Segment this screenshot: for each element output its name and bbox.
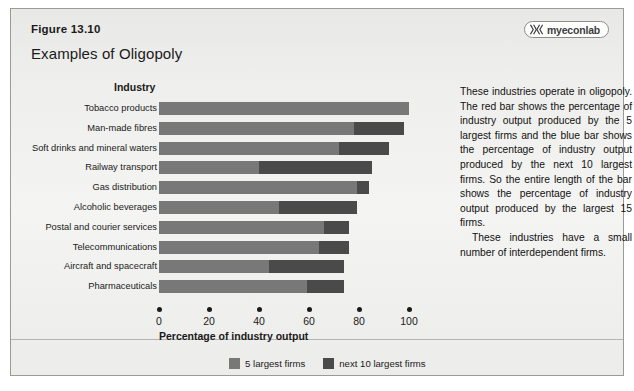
bar-row: Postal and courier services: [159, 221, 409, 234]
bar-row: Pharmaceuticals: [159, 280, 409, 293]
explanatory-paragraph-2: These industries have a small number of …: [460, 231, 632, 260]
x-axis-tick-label: 60: [303, 315, 315, 327]
oligopoly-bar-chart: Industry Tobacco productsMan-made fibres…: [11, 9, 441, 349]
y-axis-title: Industry: [114, 81, 155, 93]
bar-segment: [279, 201, 357, 214]
x-axis-tick: [407, 307, 412, 312]
legend-swatch: [323, 358, 334, 369]
bar-row: Soft drinks and mineral waters: [159, 142, 409, 155]
category-label: Alcoholic beverages: [0, 201, 157, 214]
plot-area: Tobacco productsMan-made fibresSoft drin…: [159, 102, 409, 301]
bar-row: Gas distribution: [159, 181, 409, 194]
x-axis-tick-label: 0: [156, 315, 162, 327]
legend-label: 5 largest firms: [245, 358, 305, 369]
x-axis-tick-label: 80: [353, 315, 365, 327]
x-axis-tick: [357, 307, 362, 312]
category-label: Telecommunications: [0, 241, 157, 254]
bar-segment: [159, 102, 409, 115]
bar-segment: [159, 280, 307, 293]
category-label: Man-made fibres: [0, 122, 157, 135]
bar-row: Tobacco products: [159, 102, 409, 115]
bar-row: Alcoholic beverages: [159, 201, 409, 214]
bar-row: Railway transport: [159, 161, 409, 174]
bar-segment: [354, 122, 404, 135]
bar-segment: [269, 260, 344, 273]
x-axis-tick-label: 100: [400, 315, 418, 327]
x-axis-title: Percentage of industry output: [159, 330, 308, 342]
figure-panel: Figure 13.10 Examples of Oligopoly myeco…: [10, 8, 624, 376]
category-label: Tobacco products: [0, 102, 157, 115]
explanatory-paragraph-1: These industries operate in oligopoly. T…: [460, 85, 632, 231]
figure-screenshot: Figure 13.10 Examples of Oligopoly myeco…: [0, 0, 634, 391]
legend-swatch: [229, 358, 240, 369]
category-label: Aircraft and spacecraft: [0, 260, 157, 273]
legend-item: next 10 largest firms: [323, 358, 425, 369]
bar-row: Aircraft and spacecraft: [159, 260, 409, 273]
legend-item: 5 largest firms: [229, 358, 305, 369]
brand-name: myeconlab: [547, 24, 600, 36]
x-axis-tick: [207, 307, 212, 312]
category-label: Gas distribution: [0, 181, 157, 194]
bar-segment: [307, 280, 345, 293]
bar-segment: [159, 122, 354, 135]
bar-segment: [339, 142, 389, 155]
category-label: Pharmaceuticals: [0, 280, 157, 293]
double-chevron-icon: [530, 24, 543, 35]
myeconlab-badge[interactable]: myeconlab: [524, 21, 609, 38]
bar-segment: [324, 221, 349, 234]
bar-segment: [159, 201, 279, 214]
bar-segment: [159, 181, 357, 194]
bar-segment: [319, 241, 349, 254]
x-axis-tick: [307, 307, 312, 312]
bar-segment: [159, 142, 339, 155]
legend-label: next 10 largest firms: [339, 358, 425, 369]
category-label: Soft drinks and mineral waters: [0, 142, 157, 155]
bar-segment: [159, 161, 259, 174]
bar-segment: [159, 260, 269, 273]
bar-segment: [357, 181, 370, 194]
category-label: Railway transport: [0, 161, 157, 174]
x-axis-tick-label: 20: [203, 315, 215, 327]
chart-legend: 5 largest firmsnext 10 largest firms: [229, 358, 438, 369]
x-axis-tick: [157, 307, 162, 312]
bar-segment: [159, 221, 324, 234]
category-label: Postal and courier services: [0, 221, 157, 234]
bar-row: Man-made fibres: [159, 122, 409, 135]
x-axis-tick: [257, 307, 262, 312]
bar-segment: [159, 241, 319, 254]
explanatory-text: These industries operate in oligopoly. T…: [460, 85, 632, 260]
bar-segment: [259, 161, 372, 174]
x-axis-tick-label: 40: [253, 315, 265, 327]
bar-row: Telecommunications: [159, 241, 409, 254]
